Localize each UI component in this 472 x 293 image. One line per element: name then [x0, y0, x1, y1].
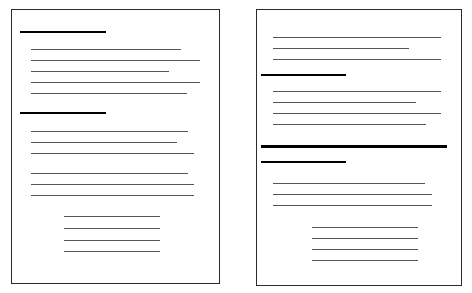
left-page-indent-line-2: [64, 228, 160, 229]
left-page-body-line-5: [31, 93, 187, 94]
right-page[interactable]: [256, 9, 462, 286]
right-page-body-line-5: [273, 102, 416, 103]
left-page-body-line-9: [31, 173, 188, 174]
left-page[interactable]: [11, 9, 220, 284]
right-page-indent-line-3: [312, 249, 418, 250]
left-page-body-line-4: [31, 82, 200, 83]
right-page-indent-line-1: [312, 227, 418, 228]
document-spread-canvas: [0, 0, 472, 293]
right-page-heading-2: [261, 161, 346, 163]
right-page-indent-line-4: [312, 260, 418, 261]
left-page-heading-1: [20, 31, 106, 33]
left-page-body-line-3: [31, 71, 169, 72]
right-page-body-line-8: [273, 183, 425, 184]
right-page-body-line-7: [273, 124, 426, 125]
left-page-body-line-11: [31, 195, 194, 196]
right-page-content: [257, 10, 461, 285]
right-page-body-line-4: [273, 91, 441, 92]
right-page-body-line-2: [273, 48, 409, 49]
left-page-body-line-6: [31, 131, 188, 132]
left-page-indent-line-4: [64, 251, 160, 252]
right-page-heading-1: [261, 74, 346, 76]
right-page-indent-line-2: [312, 238, 418, 239]
left-page-indent-line-3: [64, 240, 160, 241]
left-page-body-line-2: [31, 60, 200, 61]
left-page-indent-line-1: [64, 216, 160, 217]
right-page-body-line-6: [273, 113, 441, 114]
left-page-heading-2: [20, 112, 106, 114]
right-page-body-line-3: [273, 59, 441, 60]
left-page-body-line-1: [31, 49, 181, 50]
left-page-body-line-10: [31, 184, 194, 185]
left-page-body-line-8: [31, 153, 194, 154]
right-page-body-line-9: [273, 194, 432, 195]
right-page-body-line-10: [273, 205, 432, 206]
left-page-content: [12, 10, 219, 283]
right-page-emphasis-bar: [261, 145, 447, 148]
right-page-body-line-1: [273, 37, 441, 38]
left-page-body-line-7: [31, 142, 177, 143]
